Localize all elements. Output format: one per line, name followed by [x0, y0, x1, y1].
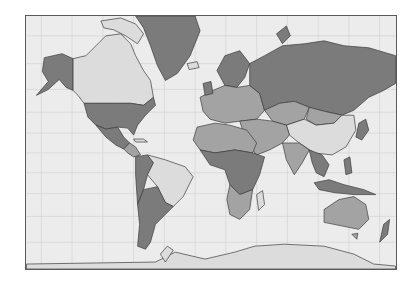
region-philippines: [344, 157, 352, 175]
region-novaya-zemlya: [276, 26, 290, 44]
region-indonesia: [314, 180, 376, 195]
region-australia: [324, 197, 369, 230]
region-tasmania: [352, 233, 358, 239]
region-india: [282, 143, 309, 175]
region-scandinavia: [217, 51, 250, 88]
region-new-zealand: [380, 219, 390, 242]
region-russia: [250, 41, 396, 115]
map-canvas: [26, 16, 396, 269]
region-canada: [73, 34, 153, 105]
region-japan: [356, 119, 369, 140]
region-antarctica: [26, 244, 395, 269]
world-map: [25, 15, 397, 270]
region-mexico: [96, 125, 130, 149]
region-greenland: [136, 16, 200, 80]
region-cuba: [134, 139, 148, 142]
region-iceland: [187, 62, 199, 70]
region-uk: [203, 81, 213, 95]
